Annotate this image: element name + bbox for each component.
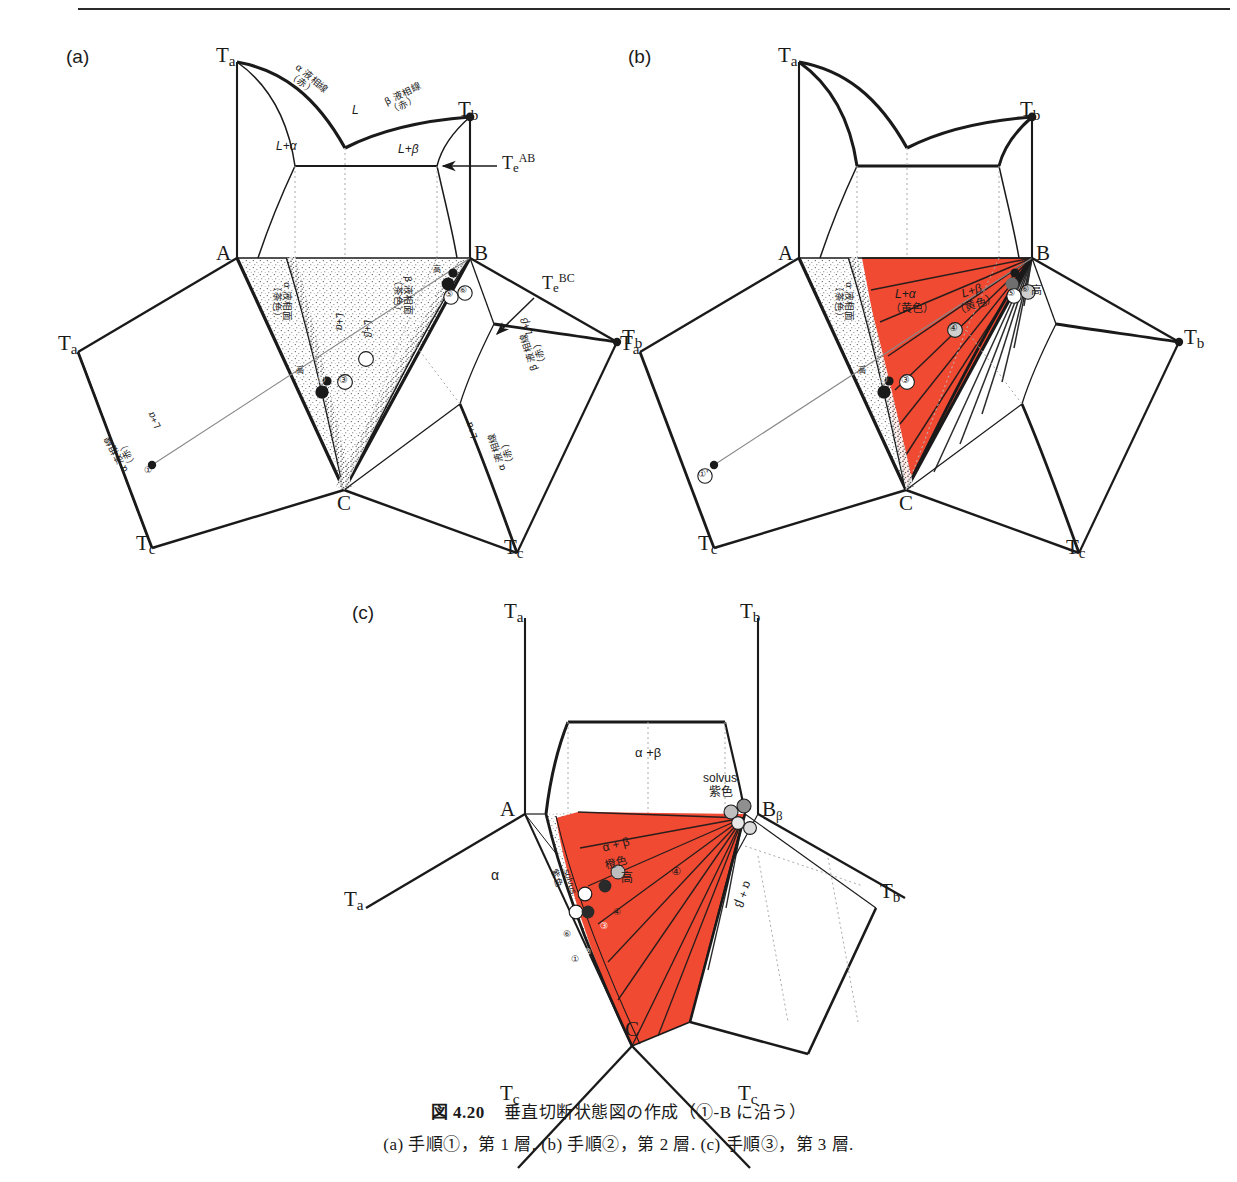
marker-b-3: ③	[901, 375, 910, 386]
label-c-solvus-top: solvus	[703, 772, 737, 785]
marker-a-6: ⑥	[459, 286, 467, 295]
label-b-A: A	[778, 242, 793, 264]
phase-diagram-graphics	[0, 0, 1237, 1182]
marker-a-1: ①	[144, 466, 152, 475]
tick-c-1: 高	[621, 872, 633, 885]
label-a-L-alpha: L+α	[276, 140, 297, 153]
tick-b-2: 高	[1031, 285, 1042, 297]
label-a-L-alpha-base: L+α	[334, 313, 345, 330]
marker-c-A-circle: ④	[671, 866, 681, 878]
figure-caption-main: 図 4.20 垂直切断状態図の作成（①-B に沿う）	[0, 1098, 1237, 1123]
label-b-Tb-right: Tb	[1184, 326, 1204, 352]
panel-label-c: (c)	[352, 602, 374, 624]
panel-label-a: (a)	[66, 46, 89, 68]
label-c-C: C	[625, 1018, 639, 1040]
label-c-Ta-left: Ta	[344, 888, 364, 914]
label-b-C: C	[899, 492, 913, 514]
label-a-alpha-liquidus-surface: α 液相面（茶色）	[272, 282, 292, 322]
marker-b-6: ⑥	[1021, 285, 1029, 294]
marker-a-5: ⑤	[445, 290, 453, 299]
label-b-Ta-top: Ta	[778, 44, 798, 70]
label-a-B: B	[474, 242, 488, 264]
label-a-Tc-left: Tc	[136, 532, 156, 558]
marker-b-2: ②	[879, 375, 888, 386]
label-a-L-beta: L+β	[398, 143, 419, 156]
label-a-L-beta-base: L+β	[362, 320, 373, 337]
panel-a-graphic	[78, 62, 621, 553]
marker-b-5: ⑤	[1007, 289, 1015, 298]
marker-a-2: ②	[317, 375, 326, 386]
label-c-alpha-beta-top: α +β	[635, 746, 661, 760]
label-b-Tc-left: Tc	[698, 532, 718, 558]
label-c-Tb-top: Tb	[740, 600, 760, 626]
marker-c-2: ②	[583, 948, 591, 957]
label-a-beta-liquidus-surface: β 液相面（茶色）	[393, 276, 413, 316]
label-c-alpha: α	[491, 868, 499, 883]
panel-c-graphic	[366, 618, 905, 1168]
label-a-C: C	[337, 492, 351, 514]
marker-c-6: ⑥	[563, 930, 571, 939]
label-a-eutectic-AB: TeAB	[502, 152, 535, 175]
tick-a-1: 高	[296, 367, 304, 375]
label-a-liquid: L	[352, 104, 359, 117]
marker-b-1-prime: ①'	[698, 470, 709, 479]
label-c-A: A	[500, 798, 515, 820]
label-c-solvus-top-color: 紫色	[709, 786, 733, 799]
figure-page: (a) Ta Tb A B C Ta Tc Tb Tc TeAB TeBC L …	[0, 0, 1237, 1182]
figure-caption-sub: (a) 手順①，第 1 層. (b) 手順②，第 2 層. (c) 手順③，第 …	[0, 1130, 1237, 1155]
marker-c-4-small: ④	[613, 908, 621, 917]
label-a-eutectic-BC: TeBC	[542, 272, 575, 295]
figure-caption-number: 図 4.20	[431, 1103, 485, 1122]
label-a-A: A	[216, 242, 231, 264]
label-a-Tb-top: Tb	[458, 98, 478, 124]
label-b-Tb-top: Tb	[1020, 98, 1040, 124]
marker-b-4: ④	[949, 323, 958, 334]
label-a-Ta-top: Ta	[216, 44, 236, 70]
label-c-B: Bβ	[762, 798, 783, 822]
panel-label-b: (b)	[628, 46, 651, 68]
label-b-L-alpha-color: （黄色）	[890, 303, 934, 315]
label-c-Tb-right: Tb	[880, 880, 900, 906]
tick-b-1: 高	[858, 367, 866, 375]
marker-c-1: ①	[571, 955, 579, 964]
label-b-alpha-liquidus-surface: α 液相面（茶色）	[834, 282, 854, 322]
label-a-Tc-right: Tc	[504, 536, 524, 562]
label-b-B: B	[1036, 242, 1050, 264]
label-b-L-alpha: L+α	[895, 288, 916, 301]
tick-a-2: 高	[433, 266, 441, 274]
marker-c-3: ③	[600, 922, 608, 931]
label-b-Tc-right: Tc	[1066, 536, 1086, 562]
label-a-Ta-left: Ta	[58, 332, 78, 358]
label-b-Ta-left: Ta	[620, 332, 640, 358]
figure-caption-title: 垂直切断状態図の作成（①-B に沿う）	[504, 1103, 807, 1122]
marker-a-3: ③	[339, 375, 348, 386]
label-c-Ta-top: Ta	[504, 600, 524, 626]
